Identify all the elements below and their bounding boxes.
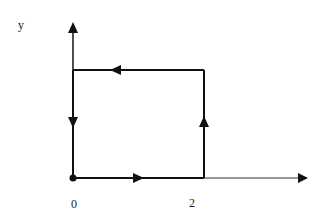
x-axis-arrowhead-icon xyxy=(298,173,308,183)
arrow-up-icon xyxy=(199,116,209,127)
x-tick-label: 2 xyxy=(189,196,195,210)
arrow-down-icon xyxy=(68,117,78,128)
arrow-left-icon xyxy=(110,65,121,75)
origin-point xyxy=(70,175,77,182)
origin-label: 0 xyxy=(71,197,77,211)
diagram-canvas: y 0 2 xyxy=(0,0,318,213)
arrow-right-icon xyxy=(133,173,144,183)
y-axis-arrowhead-icon xyxy=(68,22,78,33)
y-axis-label: y xyxy=(18,18,24,32)
